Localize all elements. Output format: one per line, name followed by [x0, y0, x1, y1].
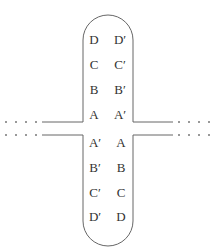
bottom-right-label: D	[116, 209, 125, 224]
top-right-label: D′	[114, 32, 126, 47]
top-left-label: B	[90, 82, 99, 97]
right-dots-top	[178, 121, 210, 123]
top-left-label: A	[89, 107, 99, 122]
bottom-left-label: A′	[89, 135, 101, 150]
bottom-right-label: A	[116, 135, 126, 150]
left-dots-bottom	[5, 134, 37, 136]
top-right-label: B′	[114, 82, 126, 97]
right-dots-bottom	[178, 134, 210, 136]
bottom-left-label: B′	[89, 160, 101, 175]
top-left-label: D	[89, 32, 98, 47]
left-dots-top	[5, 121, 37, 123]
top-right-label: C′	[114, 57, 126, 72]
top-left-label: C	[90, 57, 99, 72]
bottom-left-label: C′	[89, 185, 101, 200]
bottom-left-label: D′	[89, 209, 101, 224]
cruciform-diagram: D C B A D′ C′ B′ A′ A′ B′ C′ D′ A B C D	[0, 0, 214, 250]
bottom-right-label: C	[117, 185, 126, 200]
top-right-label: A′	[114, 107, 126, 122]
bottom-right-label: B	[117, 160, 126, 175]
